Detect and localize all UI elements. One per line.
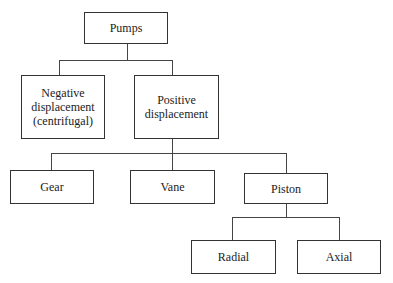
connector-vane <box>172 153 173 170</box>
connector-negative <box>59 60 60 75</box>
node-piston: Piston <box>244 173 328 204</box>
connector-root <box>127 43 128 60</box>
connector-gear <box>51 153 52 170</box>
node-axial: Axial <box>297 240 381 274</box>
connector-positive <box>172 60 173 75</box>
connector-level3 <box>232 217 340 218</box>
pump-classification-diagram: Pumps Negative displacement (centrifugal… <box>0 0 393 283</box>
node-negative-displacement: Negative displacement (centrifugal) <box>21 75 105 139</box>
node-pumps: Pumps <box>84 12 168 44</box>
connector-axial <box>339 217 340 240</box>
connector-level2 <box>51 153 287 154</box>
node-radial: Radial <box>191 240 276 274</box>
node-positive-displacement: Positive displacement <box>134 75 219 139</box>
connector-level1 <box>59 60 173 61</box>
connector-piston-down <box>286 203 287 218</box>
connector-positive-down <box>172 138 173 154</box>
connector-radial <box>232 217 233 240</box>
node-vane: Vane <box>130 170 215 204</box>
connector-piston <box>286 153 287 173</box>
node-gear: Gear <box>10 170 94 204</box>
